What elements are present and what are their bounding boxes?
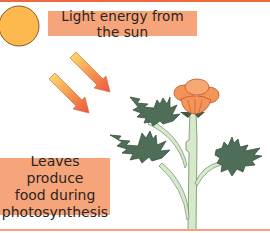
bottom-border-rule bbox=[0, 229, 270, 231]
light-arrow-lower bbox=[49, 73, 89, 113]
leaves-label: Leaves produce food during photosynthesi… bbox=[0, 158, 110, 215]
leaves-label-line-2: food during bbox=[15, 187, 96, 204]
light-energy-text: Light energy from the sun bbox=[48, 8, 197, 40]
light-arrow-upper bbox=[70, 52, 110, 92]
leaves-label-line-3: photosynthesis bbox=[2, 204, 108, 221]
sun-icon bbox=[0, 6, 39, 46]
light-energy-label: Light energy from the sun bbox=[48, 11, 197, 36]
flower bbox=[174, 79, 219, 118]
flowering-plant bbox=[110, 79, 262, 230]
leaves-label-line-1: Leaves produce bbox=[0, 153, 110, 187]
